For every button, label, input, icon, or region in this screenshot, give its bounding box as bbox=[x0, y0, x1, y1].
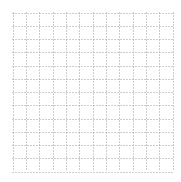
dotted-grid bbox=[0, 0, 181, 182]
